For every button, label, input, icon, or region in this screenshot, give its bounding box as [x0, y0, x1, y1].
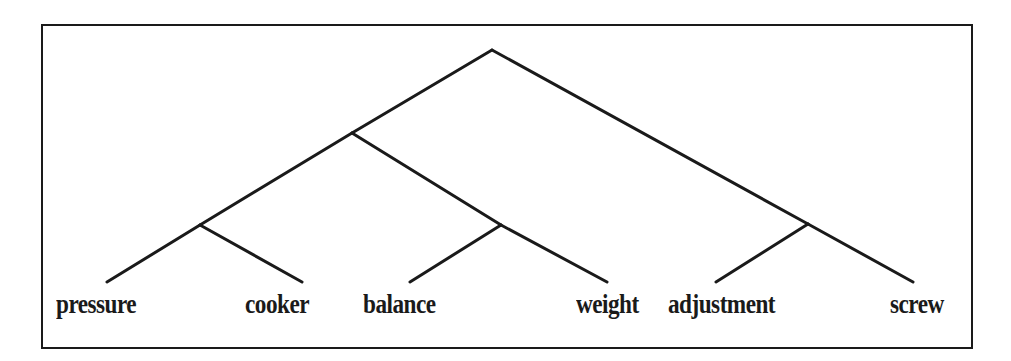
tree-edge: [716, 224, 808, 282]
leaf-label-screw: screw: [890, 289, 944, 319]
tree-edge: [808, 224, 913, 282]
tree-edge: [352, 50, 492, 133]
tree-edge: [200, 225, 302, 282]
tree-edge: [352, 133, 501, 225]
tree-edge: [107, 225, 200, 282]
leaf-label-pressure: pressure: [56, 289, 136, 319]
tree-diagram: pressure cooker balance weight adjustmen…: [0, 0, 1011, 361]
tree-edge: [501, 225, 607, 282]
leaf-label-weight: weight: [576, 289, 639, 319]
tree-edge: [200, 133, 352, 225]
leaf-label-adjustment: adjustment: [668, 289, 775, 319]
tree-edge: [492, 50, 808, 224]
leaf-label-cooker: cooker: [245, 289, 309, 319]
tree-branches: [0, 0, 1011, 361]
leaf-label-balance: balance: [363, 289, 436, 319]
tree-edge: [410, 225, 501, 282]
